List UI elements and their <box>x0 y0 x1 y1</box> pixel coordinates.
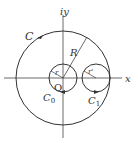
contour-c1-label: C1 <box>88 95 100 108</box>
contour-c0-label: C0 <box>43 92 55 105</box>
radius-R-label: R <box>69 47 78 58</box>
x-axis-label: x <box>125 73 131 84</box>
radius-r-prime-label: r' <box>88 68 93 76</box>
radius-small-r-label: r <box>55 69 59 77</box>
origin-label: O <box>54 82 62 93</box>
y-axis-label: iy <box>60 6 69 17</box>
contour-diagram: iy x O C R r C0 r' C1 <box>0 0 138 143</box>
contour-c1-arrow-icon <box>94 90 99 94</box>
contour-c-label: C <box>25 30 34 43</box>
